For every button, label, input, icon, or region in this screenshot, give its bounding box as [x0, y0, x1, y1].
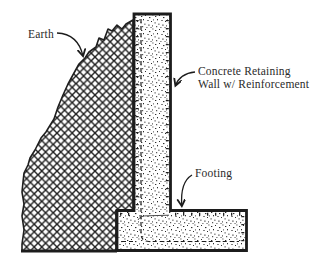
retaining-wall-diagram: Earth Concrete Retaining Wall w/ Reinfor…: [0, 0, 325, 272]
wall-label-line1: Concrete Retaining: [198, 65, 291, 78]
earth-leader-arrow: [57, 33, 83, 56]
footing-label: Footing: [195, 167, 232, 180]
diagram-canvas: Earth Concrete Retaining Wall w/ Reinfor…: [0, 0, 325, 272]
wall-label-line2: Wall w/ Reinforcement: [198, 78, 310, 90]
wall-leader-arrow: [176, 72, 196, 86]
footing-leader-arrow: [182, 175, 192, 206]
earth-label: Earth: [28, 28, 54, 40]
